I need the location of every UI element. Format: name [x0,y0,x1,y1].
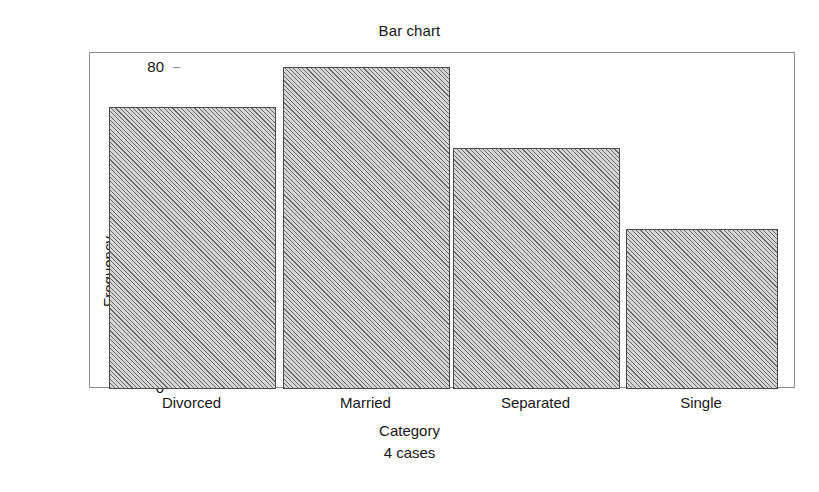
x-tick-label-single: Single [625,394,777,411]
bar-separated[interactable] [453,148,620,389]
bar-divorced[interactable] [109,107,276,389]
x-axis-title: Category [0,422,819,439]
x-axis-subtitle: 4 cases [0,444,819,461]
chart-title: Bar chart [0,22,819,39]
x-tick-label-married: Married [282,394,449,411]
bar-chart-figure: Bar chart Frequency 80 60 40 20 0 Div [0,0,819,492]
y-tick-label-80: 80 [88,58,164,75]
bar-single[interactable] [626,229,778,389]
y-tick-mark-80 [173,67,180,68]
bar-married[interactable] [283,67,450,389]
x-tick-label-separated: Separated [452,394,619,411]
x-tick-label-divorced: Divorced [108,394,275,411]
plot-area: Frequency 80 60 40 20 0 [89,52,795,388]
